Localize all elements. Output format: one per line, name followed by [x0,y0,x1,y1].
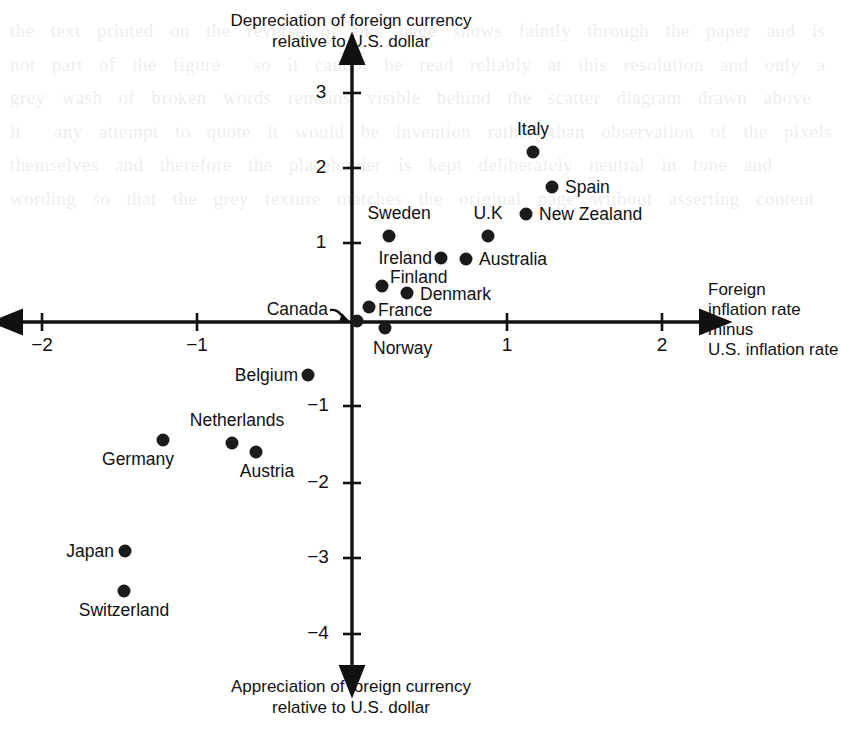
ytick-label--4: −4 [307,622,329,644]
ytick-label-1: 1 [316,231,327,253]
scatter-plot-figure: the text printed on the reverse of this … [0,0,843,730]
point-label-switzerland: Switzerland [79,600,169,621]
point-label-uk: U.K [473,203,502,224]
xtick-label--2: −2 [31,334,53,356]
ytick-label-2: 2 [316,156,327,178]
point-label-netherlands: Netherlands [190,410,284,431]
data-point-switzerland[interactable] [118,585,131,598]
data-point-uk[interactable] [482,230,495,243]
bottom-axis-title: Appreciation of foreign currency relativ… [196,676,506,718]
data-point-australia[interactable] [460,253,473,266]
point-label-norway: Norway [373,338,432,359]
data-point-finland[interactable] [376,280,389,293]
point-label-austria: Austria [240,461,294,482]
data-point-sweden[interactable] [383,230,396,243]
point-label-spain: Spain [565,177,610,198]
right-axis-title: Foreign inflation rate minus U.S. inflat… [708,280,840,360]
ytick-label--3: −3 [307,546,329,568]
data-point-canada[interactable] [351,315,364,328]
data-point-belgium[interactable] [302,369,315,382]
point-label-sweden: Sweden [367,203,430,224]
ytick-label--2: −2 [307,471,329,493]
data-point-italy[interactable] [527,146,540,159]
point-label-ireland: Ireland [378,248,432,269]
point-label-belgium: Belgium [235,365,298,386]
point-label-france: France [378,300,432,321]
top-axis-title: Depreciation of foreign currency relativ… [196,10,506,52]
point-label-canada: Canada [267,299,328,320]
data-point-ireland[interactable] [435,252,448,265]
point-label-australia: Australia [479,249,547,270]
ytick-label--1: −1 [307,394,329,416]
data-point-spain[interactable] [546,181,559,194]
xtick-label-1: 1 [502,334,513,356]
xtick-label-2: 2 [657,334,668,356]
data-point-netherlands[interactable] [226,437,239,450]
data-point-japan[interactable] [119,545,132,558]
point-label-italy: Italy [517,119,549,140]
point-label-new-zealand: New Zealand [539,204,642,225]
data-point-france-norway[interactable] [379,322,392,335]
canada-leader-arrow [330,310,350,322]
data-point-germany[interactable] [157,434,170,447]
point-label-germany: Germany [102,449,174,470]
xtick-label--1: −1 [186,334,208,356]
data-point-austria[interactable] [250,446,263,459]
ytick-label-3: 3 [316,81,327,103]
data-point-unlabeled[interactable] [363,301,376,314]
data-point-new-zealand[interactable] [520,208,533,221]
data-point-denmark[interactable] [401,287,414,300]
point-label-japan: Japan [66,541,114,562]
